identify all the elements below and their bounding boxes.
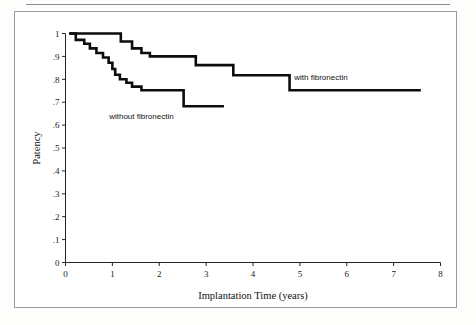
y-tick-label: .4 bbox=[53, 166, 60, 176]
series-curves bbox=[69, 34, 421, 107]
km-curve-with-fibronectin bbox=[69, 34, 421, 91]
km-curve-without-fibronectin bbox=[69, 34, 224, 107]
y-tick-label: .6 bbox=[53, 120, 60, 130]
figure-page: 0.1.2.3.4.5.6.7.8.91 012345678 with fibr… bbox=[0, 0, 476, 325]
x-tick-label: 5 bbox=[298, 269, 303, 279]
y-tick-label: .8 bbox=[53, 75, 60, 85]
x-tick-label: 4 bbox=[251, 269, 256, 279]
series-annotations: with fibronectinwithout fibronectin bbox=[108, 73, 347, 120]
x-tick-label: 2 bbox=[157, 269, 162, 279]
x-axis-ticks: 012345678 bbox=[63, 263, 443, 279]
y-tick-label: .2 bbox=[53, 212, 60, 222]
x-tick-label: 6 bbox=[345, 269, 350, 279]
y-tick-label: .3 bbox=[53, 189, 60, 199]
x-tick-label: 8 bbox=[438, 269, 443, 279]
y-tick-label: .5 bbox=[53, 143, 60, 153]
y-tick-label: 1 bbox=[55, 29, 60, 39]
chart-svg: 0.1.2.3.4.5.6.7.8.91 012345678 with fibr… bbox=[0, 0, 476, 325]
curve-annotation-with-fibronectin: with fibronectin bbox=[293, 73, 347, 82]
y-tick-label: .7 bbox=[53, 97, 60, 107]
x-tick-label: 3 bbox=[204, 269, 209, 279]
y-axis-ticks: 0.1.2.3.4.5.6.7.8.91 bbox=[53, 29, 66, 268]
kaplan-meier-chart: 0.1.2.3.4.5.6.7.8.91 012345678 with fibr… bbox=[0, 0, 476, 325]
x-tick-label: 7 bbox=[391, 269, 396, 279]
y-tick-label: .9 bbox=[53, 52, 60, 62]
curve-annotation-without-fibronectin: without fibronectin bbox=[108, 112, 173, 121]
x-axis-title: Implantation Time (years) bbox=[198, 290, 308, 302]
x-tick-label: 1 bbox=[110, 269, 115, 279]
y-tick-label: 0 bbox=[55, 258, 60, 268]
y-axis-title: Patency bbox=[31, 131, 42, 165]
y-tick-label: .1 bbox=[53, 235, 60, 245]
x-tick-label: 0 bbox=[63, 269, 68, 279]
